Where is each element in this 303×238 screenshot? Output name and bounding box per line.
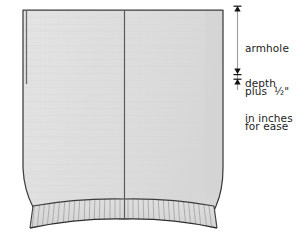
arrow-up-icon-low — [234, 79, 242, 85]
ease-allowance-annotation: plus ½" for ease — [245, 63, 289, 156]
armhole-annotation-line-1: armhole — [245, 43, 293, 55]
arrow-down-icon-mid — [234, 69, 242, 75]
arrow-up-icon-top — [234, 6, 242, 12]
measurement-guide — [234, 6, 242, 90]
ease-annotation-line-2: for ease — [245, 121, 289, 133]
ease-annotation-line-1: plus ½" — [245, 86, 289, 98]
diagram-canvas: armhole depth in inches plus ½" for ease — [0, 0, 303, 238]
